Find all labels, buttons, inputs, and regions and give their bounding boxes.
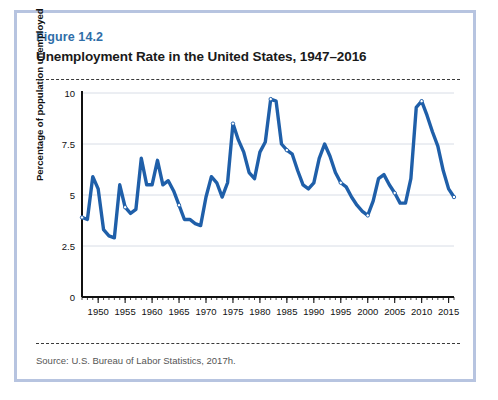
bottom-divider [36,343,460,344]
x-tick-label: 1975 [222,306,243,317]
figure-number: Figure 14.2 [36,30,103,44]
x-tick-label: 1970 [195,306,216,317]
data-point-marker [269,97,272,100]
x-tick-label: 1955 [115,306,136,317]
x-tick-label: 2015 [438,306,459,317]
top-divider [36,79,460,80]
data-point-marker [452,195,455,198]
data-point-marker [285,148,288,151]
y-tick-label: 7.5 [62,139,75,150]
chart-area: Percentage of population unemployed 02.5… [36,85,460,337]
source-note: Source: U.S. Bureau of Labor Statistics,… [36,355,236,366]
y-tick-label: 2.5 [62,241,75,252]
figure-inner: Figure 14.2 Unemployment Rate in the Uni… [17,13,473,379]
data-point-marker [177,204,180,207]
data-line [82,99,454,238]
data-point-marker [339,181,342,184]
data-point-marker [393,191,396,194]
y-tick-label: 0 [70,292,75,303]
data-point-marker [231,122,234,125]
x-tick-label: 2010 [411,306,432,317]
y-tick-label: 10 [64,88,75,99]
y-axis-label: Percentage of population unemployed [34,8,45,181]
x-tick-label: 1980 [249,306,270,317]
x-tick-label: 2000 [357,306,378,317]
figure-card: Figure 14.2 Unemployment Rate in the Uni… [14,10,476,382]
data-point-marker [123,206,126,209]
data-point-marker [80,216,83,219]
x-tick-label: 1960 [142,306,163,317]
x-tick-label: 1950 [88,306,109,317]
data-point-marker [420,99,423,102]
x-tick-label: 1990 [303,306,324,317]
unemployment-line-chart: 02.557.510195019551960196519701975198019… [36,85,460,337]
data-point-marker [366,214,369,217]
x-tick-label: 1965 [168,306,189,317]
figure-title: Unemployment Rate in the United States, … [36,49,366,64]
x-tick-label: 1995 [330,306,351,317]
x-tick-label: 2005 [384,306,405,317]
y-tick-label: 5 [70,190,75,201]
x-tick-label: 1985 [276,306,297,317]
